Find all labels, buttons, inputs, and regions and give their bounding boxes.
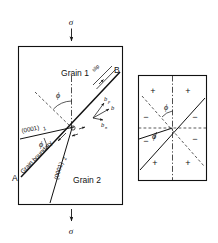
- burgers-total-vector-arrow: [93, 109, 109, 118]
- step-arrow-left-icon: [72, 134, 78, 136]
- slip-label: slip: [91, 63, 101, 73]
- figure-root: σ ϕ ϕ slip: [0, 0, 218, 243]
- stress-bottom-group: σ: [69, 209, 74, 236]
- burgers-normal-label-group: b n: [101, 121, 108, 130]
- grain-1-label: Grain 1: [61, 68, 89, 78]
- slip-direction-arrow-icon: [99, 80, 104, 85]
- sign-quadrant-midright-lower: −: [192, 134, 197, 144]
- basal-plane-2-label-group: (0001) 2: [52, 155, 68, 181]
- grain-boundary-label: Grain boundary: [19, 138, 54, 174]
- burgers-normal-vector-arrow: [93, 118, 103, 120]
- burgers-parallel-vector-arrow: [93, 103, 104, 118]
- stress-top-group: σ: [69, 17, 74, 41]
- sign-quadrant-midleft-upper: −: [143, 112, 148, 122]
- right-panel-diagonal-dashed: [142, 96, 204, 166]
- basal-plane-1-subscript: 1: [42, 125, 46, 131]
- right-phi-label-lower: ϕ: [152, 132, 156, 141]
- sign-quadrant-top-left: +: [150, 86, 155, 96]
- sign-quadrant-midleft-lower: −: [143, 136, 148, 146]
- stress-symbol-top: σ: [69, 17, 74, 27]
- stress-symbol-bottom: σ: [69, 226, 74, 236]
- boundary-endpoint-a-label: A: [12, 173, 18, 183]
- boundary-endpoint-b-label: B: [114, 65, 120, 75]
- right-phi-label-upper: ϕ: [164, 103, 168, 112]
- basal-plane-1-label: (0001): [21, 123, 40, 134]
- burgers-parallel-label-group: b p: [104, 95, 111, 104]
- burgers-vector-group: [93, 103, 109, 120]
- sign-quadrant-midright-upper: −: [192, 112, 197, 122]
- sign-quadrant-top-right: +: [185, 86, 190, 96]
- bicrystal-diagram: σ ϕ ϕ slip: [0, 0, 218, 243]
- grain-2-label: Grain 2: [73, 175, 101, 185]
- burgers-total-label: b: [111, 104, 115, 111]
- phi-arc-upper: [54, 101, 72, 109]
- sign-quadrant-bottom-left: +: [152, 158, 157, 168]
- basal-plane-2-label: (0001): [52, 161, 64, 180]
- step-arrow-right-icon: [79, 127, 85, 129]
- basal-normal-dashed-line: [35, 92, 71, 127]
- sign-quadrant-bottom-right: +: [185, 158, 190, 168]
- basal-plane-2-subscript: 2: [61, 156, 68, 161]
- burgers-normal-subscript: n: [105, 125, 108, 130]
- phi-label-upper: ϕ: [56, 91, 60, 100]
